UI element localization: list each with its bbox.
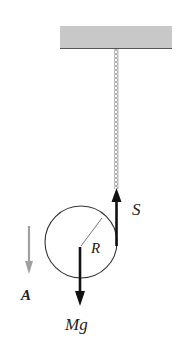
label-s: S	[132, 200, 141, 219]
weight-arrow	[75, 247, 85, 306]
acceleration-arrow	[25, 226, 33, 274]
free-body-diagram: S R A Mg	[0, 0, 178, 364]
label-r: R	[90, 240, 100, 256]
label-mg: Mg	[64, 315, 88, 334]
tension-arrow	[112, 188, 122, 246]
ceiling	[60, 26, 172, 49]
label-a: A	[20, 287, 31, 303]
rope	[114, 49, 119, 189]
